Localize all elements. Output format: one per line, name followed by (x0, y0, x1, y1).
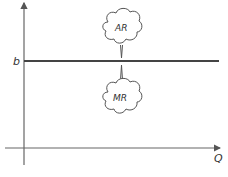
mr-label: MR (113, 93, 127, 103)
q-axis-label: Q (214, 152, 223, 165)
ar-label: AR (114, 23, 127, 33)
ar-mr-diagram: b Q AR MR (0, 0, 228, 177)
ar-callout-stem (121, 45, 123, 58)
b-label: b (13, 55, 20, 68)
mr-callout-stem (121, 65, 123, 80)
